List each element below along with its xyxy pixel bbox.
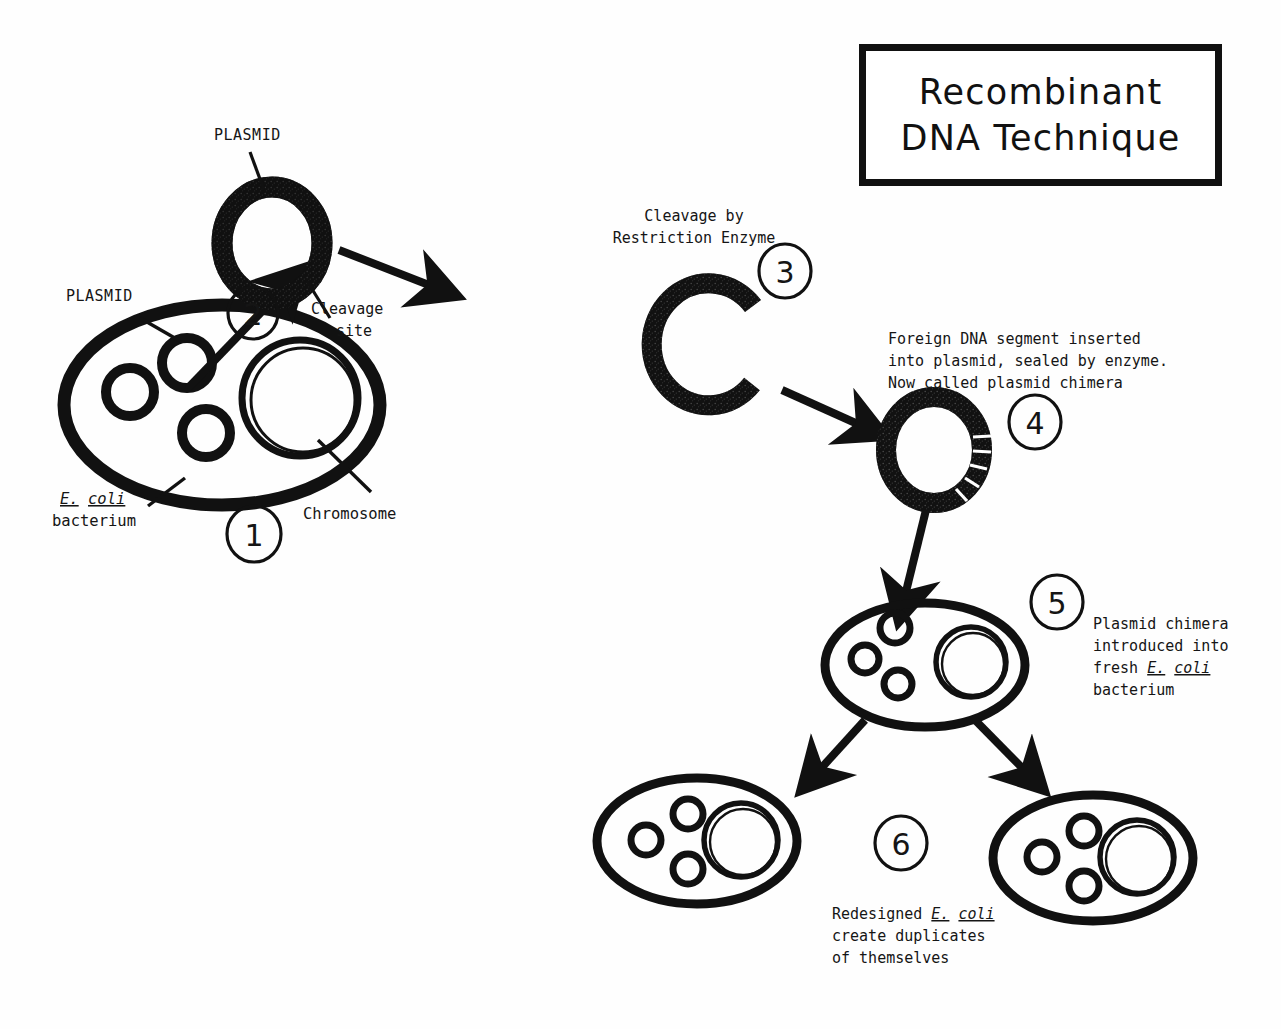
step-6-daughter-right: [993, 795, 1193, 921]
ecoli-genus: E.: [60, 490, 79, 508]
step-4-caption-line1: Foreign DNA segment inserted: [888, 330, 1141, 348]
plasmid-circle: [162, 338, 212, 388]
ecoli-genus: E.: [931, 905, 949, 923]
step-4-caption-line3: Now called plasmid chimera: [888, 374, 1123, 392]
step-2-cleavage-label-line2: site: [336, 322, 372, 340]
step-number-3: 3: [759, 244, 811, 298]
plasmid-circle: [182, 409, 230, 457]
step-5-caption-line2: introduced into: [1093, 637, 1228, 655]
step-number-5-text: 5: [1047, 586, 1066, 621]
title-line-2: DNA Technique: [900, 115, 1180, 161]
title-line-1: Recombinant: [919, 69, 1163, 115]
arrow-step2-to-step3: [339, 250, 452, 294]
plasmid-circle: [106, 368, 154, 416]
ecoli-species: coli: [958, 905, 994, 923]
chromosome-shape: [242, 340, 358, 456]
step-number-3-text: 3: [775, 255, 794, 290]
plasmid-circle: [673, 854, 703, 884]
plasmid-circle: [673, 799, 703, 829]
arrow-step5-to-daughter-right: [975, 720, 1040, 786]
step-1-plasmid-label: PLASMID: [66, 287, 133, 305]
step-4-caption-line2: into plasmid, sealed by enzyme.: [888, 352, 1168, 370]
plasmid-circle: [884, 670, 912, 698]
step-6-caption-line1: Redesigned E. coli: [832, 905, 995, 923]
arrow-step3-to-step4: [782, 390, 880, 434]
arrow-step5-to-daughter-left: [805, 720, 865, 786]
step-number-1: 1: [227, 506, 281, 562]
ecoli-species: coli: [88, 490, 125, 508]
step-6-caption-line2: create duplicates: [832, 927, 986, 945]
step-number-6-text: 6: [891, 827, 910, 862]
step-1-organism-label: E. coli: [60, 490, 125, 508]
step-number-6: 6: [875, 816, 927, 870]
plasmid-leader-line: [140, 318, 180, 341]
step-5-bacterium: Plasmid chimera introduced into fresh E.…: [825, 575, 1228, 727]
redesigned-word: Redesigned: [832, 905, 931, 923]
title-box: Recombinant DNA Technique: [859, 44, 1222, 186]
plasmid-circle: [1027, 842, 1057, 872]
step-4-plasmid-chimera: Foreign DNA segment inserted into plasmi…: [886, 330, 1168, 503]
plasmid-circle: [1069, 871, 1099, 901]
plasmid-circle: [851, 645, 879, 673]
step-number-4: 4: [1009, 395, 1061, 449]
step-5-caption-line1: Plasmid chimera: [1093, 615, 1228, 633]
fresh-word: fresh: [1093, 659, 1147, 677]
step-6-caption-line3: of themselves: [832, 949, 949, 967]
step-5-caption-line3: fresh E. coli: [1093, 659, 1210, 677]
diagram-canvas: PLASMID Chromosome E. coli bacterium 1 P…: [0, 0, 1281, 1029]
chromosome-shape: [704, 803, 778, 877]
ecoli-species: coli: [1174, 659, 1210, 677]
ecoli-genus: E.: [1147, 659, 1165, 677]
plasmid-chimera-circle: [880, 613, 910, 643]
plasmid-circle: [1069, 816, 1099, 846]
step-6-daughter-left: [597, 778, 797, 904]
chromosome-shape: [1100, 820, 1174, 894]
step-number-1-text: 1: [244, 518, 263, 553]
step-3-caption-line1: Cleavage by: [644, 207, 743, 225]
step-1-chromosome-label: Chromosome: [303, 505, 396, 523]
step-number-5: 5: [1031, 575, 1083, 629]
step-3-caption-line2: Restriction Enzyme: [613, 229, 776, 247]
step-1-organism-label-line2: bacterium: [52, 512, 136, 530]
step-3-cleaved-plasmid: Cleavage by Restriction Enzyme 3: [613, 207, 811, 405]
step-2-cleavage-label-line1: Cleavage: [311, 300, 383, 318]
chromosome-shape: [936, 627, 1006, 697]
step-number-2-text: 2: [243, 297, 262, 332]
plasmid-circle: [631, 825, 661, 855]
step-5-caption-line4: bacterium: [1093, 681, 1174, 699]
step-2-plasmid-label: PLASMID: [214, 126, 281, 144]
step-number-4-text: 4: [1025, 406, 1044, 441]
